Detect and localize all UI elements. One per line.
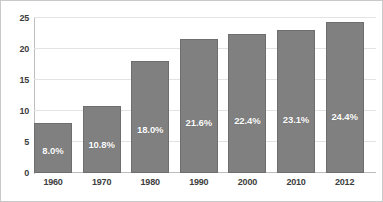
y-tick-label-20: 20 — [19, 44, 29, 54]
gridline-25 — [34, 17, 376, 18]
bar-value-label-1990: 21.6% — [181, 117, 217, 128]
bar-value-label-1970: 10.8% — [84, 139, 120, 150]
y-axis-tick-labels: 2520151050 — [1, 18, 29, 173]
bar-value-label-2000: 22.4% — [229, 115, 265, 126]
bar-1980[interactable]: 18.0% — [131, 61, 169, 173]
bar-chart-figure: 2520151050 8.0%10.8%18.0%21.6%22.4%23.1%… — [0, 0, 383, 202]
x-tick-label-1960: 1960 — [29, 177, 77, 187]
bar-value-label-2012: 24.4% — [327, 111, 363, 122]
bar-1970[interactable]: 10.8% — [83, 106, 121, 173]
x-tick-label-2010: 2010 — [272, 177, 320, 187]
bar-1990[interactable]: 21.6% — [180, 39, 218, 173]
x-tick-label-1970: 1970 — [78, 177, 126, 187]
y-tick-label-5: 5 — [24, 137, 29, 147]
bar-2000[interactable]: 22.4% — [228, 34, 266, 173]
x-tick-label-1990: 1990 — [175, 177, 223, 187]
bar-1960[interactable]: 8.0% — [34, 123, 72, 173]
plot-area: 8.0%10.8%18.0%21.6%22.4%23.1%24.4% — [34, 18, 376, 173]
y-tick-label-25: 25 — [19, 13, 29, 23]
y-tick-label-15: 15 — [19, 75, 29, 85]
y-tick-label-10: 10 — [19, 106, 29, 116]
x-tick-label-1980: 1980 — [126, 177, 174, 187]
bar-value-label-1980: 18.0% — [132, 124, 168, 135]
bar-value-label-1960: 8.0% — [35, 145, 71, 156]
bar-2010[interactable]: 23.1% — [277, 30, 315, 173]
x-tick-label-2012: 2012 — [321, 177, 369, 187]
x-tick-label-2000: 2000 — [223, 177, 271, 187]
bar-value-label-2010: 23.1% — [278, 114, 314, 125]
bar-2012[interactable]: 24.4% — [326, 22, 364, 173]
